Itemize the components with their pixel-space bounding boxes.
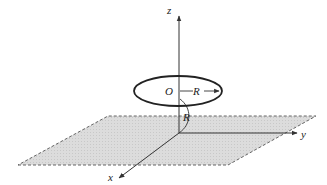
height-label: R — [182, 111, 190, 123]
xy-plane — [18, 116, 316, 165]
radius-label: R — [192, 85, 200, 97]
center-label: O — [165, 85, 173, 97]
x-axis-label: x — [107, 171, 113, 183]
z-axis-label: z — [166, 4, 172, 16]
y-axis-label: y — [300, 128, 306, 140]
diagram-canvas: z y x O R R — [0, 0, 327, 185]
